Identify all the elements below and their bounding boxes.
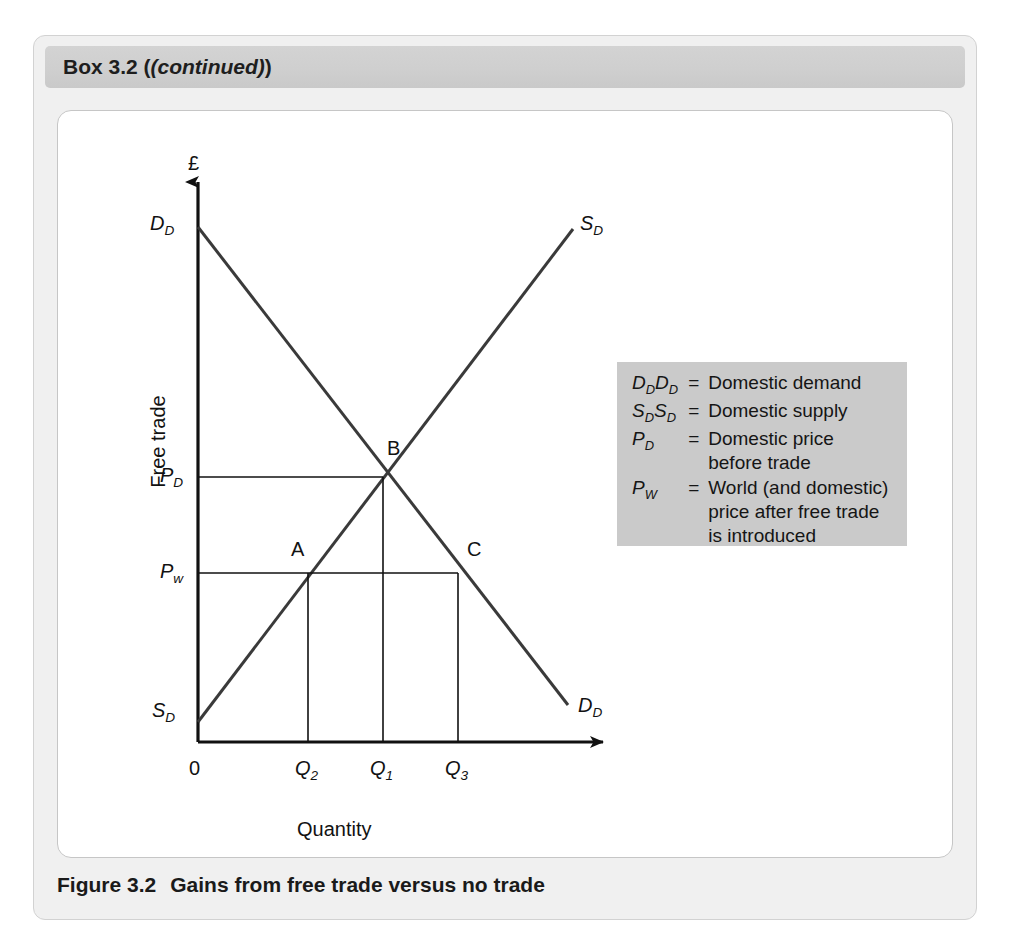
- legend-symbol-pd: PD: [632, 427, 688, 476]
- demand-curve-start-label: DD: [150, 212, 174, 238]
- box-title-close-paren: ): [265, 55, 272, 78]
- figure-caption: Figure 3.2Gains from free trade versus n…: [57, 873, 545, 897]
- x-tick-label-q3: Q3: [445, 757, 468, 783]
- legend-equals-0: =: [688, 371, 708, 399]
- annotation-label-a: A: [291, 538, 304, 561]
- box-title: Box 3.2 ((continued)): [63, 55, 272, 79]
- legend-text-1-line-0: Domestic supply: [708, 399, 888, 423]
- legend-symbol-ss: SDSD: [632, 399, 688, 427]
- supply-curve-end-label: SD: [580, 212, 603, 238]
- legend-row-demand: DDDD = Domestic demand: [632, 371, 888, 399]
- legend-text-2-line-1: before trade: [708, 451, 888, 475]
- figure-caption-text: Gains from free trade versus no trade: [170, 873, 545, 896]
- legend-row-pw: PW = World (and domestic) price after fr…: [632, 476, 888, 549]
- legend-row-pd: PD = Domestic price before trade: [632, 427, 888, 476]
- legend-equals-1: =: [688, 399, 708, 427]
- legend-text-2: Domestic price before trade: [708, 427, 888, 476]
- legend-text-0-line-0: Domestic demand: [708, 371, 888, 395]
- page-header-remnant: · · · ·: [430, 0, 990, 4]
- box-title-open-paren: (: [144, 55, 151, 78]
- legend-text-3-line-1: price after free trade: [708, 500, 888, 524]
- x-tick-label-q1: Q1: [370, 757, 393, 783]
- legend-symbol-dd: DDDD: [632, 371, 688, 399]
- box-title-continued: (continued): [151, 55, 265, 78]
- y-axis-unit-label: £: [188, 152, 199, 175]
- legend-text-3-line-2: is introduced: [708, 524, 888, 548]
- x-axis-title: Quantity: [297, 818, 371, 841]
- legend-equals-3: =: [688, 476, 708, 549]
- legend-equals-2: =: [688, 427, 708, 476]
- legend-text-1: Domestic supply: [708, 399, 888, 427]
- y-axis-title: Free trade: [147, 372, 170, 512]
- legend-row-supply: SDSD = Domestic supply: [632, 399, 888, 427]
- x-tick-label-q2: Q2: [295, 757, 318, 783]
- box-title-main: Box 3.2: [63, 55, 144, 78]
- demand-curve-end-label: DD: [578, 694, 602, 720]
- legend-text-0: Domestic demand: [708, 371, 888, 399]
- legend-text-3: World (and domestic) price after free tr…: [708, 476, 888, 549]
- legend-table: DDDD = Domestic demand SDSD = Domestic s…: [632, 371, 888, 549]
- figure-caption-number: Figure 3.2: [57, 873, 156, 896]
- supply-curve-start-label: SD: [152, 699, 175, 725]
- box-header-band: Box 3.2 ((continued)): [45, 46, 965, 88]
- y-tick-label-pw: Pw: [160, 560, 183, 586]
- legend-symbol-pw: PW: [632, 476, 688, 549]
- legend-text-3-line-0: World (and domestic): [708, 476, 888, 500]
- annotation-label-c: C: [467, 538, 481, 561]
- origin-label: 0: [189, 757, 200, 780]
- legend-text-2-line-0: Domestic price: [708, 427, 888, 451]
- legend-box: DDDD = Domestic demand SDSD = Domestic s…: [617, 362, 907, 546]
- annotation-label-b: B: [387, 437, 400, 460]
